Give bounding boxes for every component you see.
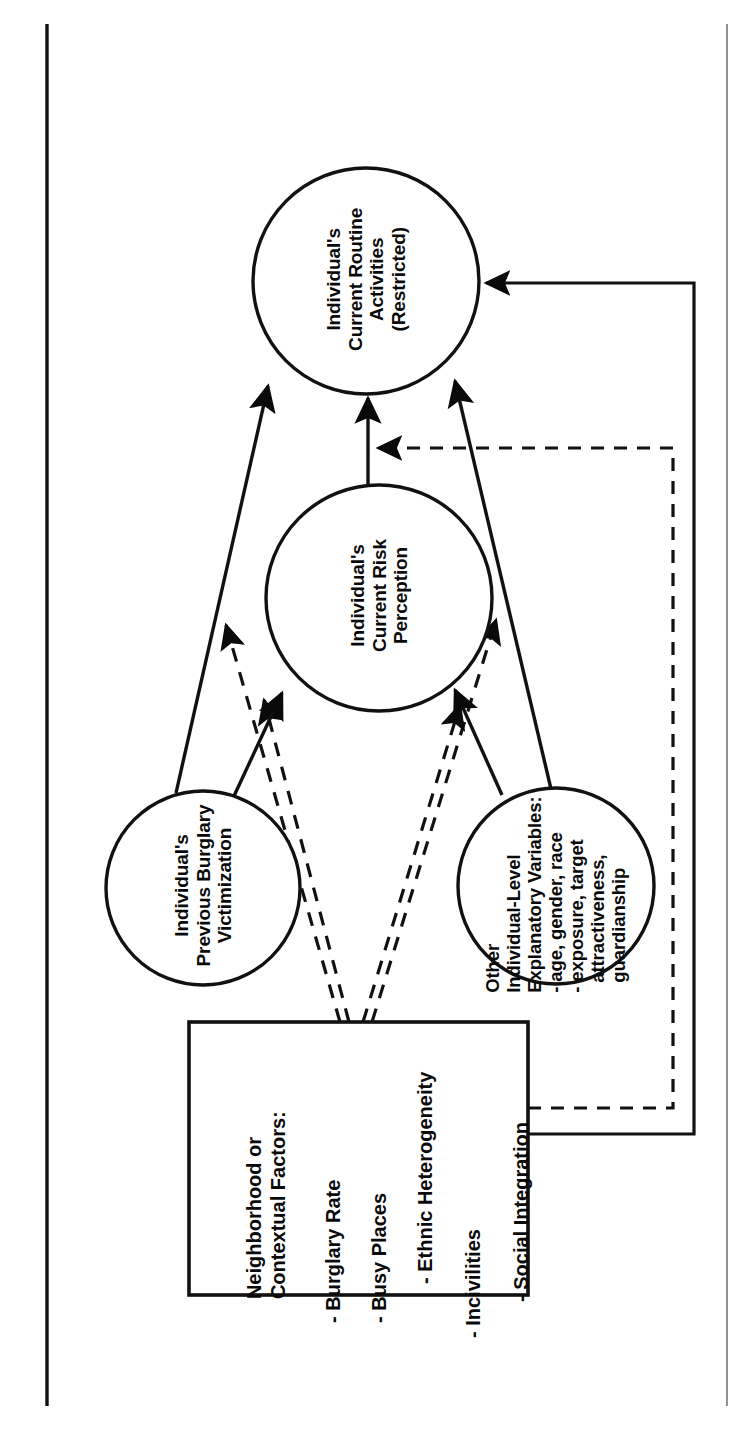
node-other-individual-level[interactable] [458, 788, 654, 984]
node-routine-activities[interactable] [253, 168, 479, 394]
node-risk-perception[interactable] [266, 485, 492, 711]
edge-neighborhood-to-risk-right [363, 705, 460, 1022]
edge-neighborhood-solid-to-routine [486, 283, 694, 1134]
neighborhood-item-ethnic-heterogeneity: - Ethnic Heterogeneity [414, 1019, 437, 1284]
neighborhood-item-busy-places: - Busy Places [368, 1058, 391, 1323]
edge-prev-to-routine [176, 386, 268, 793]
neighborhood-box-content: Neighborhood or Contextual Factors: - Bu… [189, 1022, 528, 1295]
edge-other-to-risk [455, 690, 502, 795]
neighborhood-item-burglary-rate: - Burglary Rate [322, 1058, 345, 1323]
neighborhood-heading: Neighborhood or Contextual Factors: [243, 1034, 290, 1299]
node-previous-victimization[interactable] [106, 791, 300, 985]
